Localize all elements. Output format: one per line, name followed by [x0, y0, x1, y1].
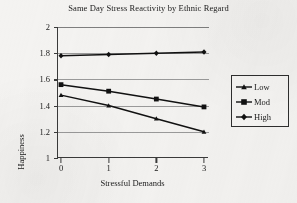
legend-label: Low — [254, 82, 270, 92]
data-point-marker — [241, 113, 247, 119]
x-axis-tick-label: 1 — [107, 164, 111, 173]
x-axis-tick-labels: 0123 — [57, 164, 208, 176]
legend-label: High — [254, 112, 271, 122]
y-axis-tick-label: 2 — [46, 23, 50, 32]
legend-item-high[interactable]: High — [235, 109, 286, 124]
data-point-marker — [154, 97, 159, 102]
data-point-marker — [58, 53, 63, 59]
y-axis-tick-label: 1.4 — [39, 101, 50, 110]
y-axis-title: Happiness — [16, 112, 26, 192]
series-high — [58, 49, 206, 58]
data-point-marker — [106, 89, 111, 94]
series-line — [61, 85, 204, 107]
data-point-marker — [202, 105, 207, 110]
data-point-marker — [241, 99, 247, 105]
legend-item-mod[interactable]: Mod — [235, 94, 286, 109]
chart-figure: Same Day Stress Reactivity by Ethnic Reg… — [0, 0, 297, 203]
data-point-marker — [201, 49, 206, 55]
data-point-marker — [59, 82, 64, 87]
series-layer — [57, 27, 208, 158]
chart-legend: LowModHigh — [231, 75, 289, 127]
legend-marker-diamond-icon — [235, 111, 253, 123]
x-axis-tick-label: 3 — [202, 164, 206, 173]
chart-title: Same Day Stress Reactivity by Ethnic Reg… — [0, 3, 297, 13]
legend-label: Mod — [254, 97, 270, 107]
y-axis-tick-labels: 11.21.41.61.82 — [0, 27, 55, 158]
legend-marker-square-icon — [235, 96, 253, 108]
x-axis-tick-label: 0 — [59, 164, 63, 173]
y-axis-tick-label: 1.8 — [39, 49, 50, 58]
series-mod — [59, 82, 207, 109]
x-axis-tick-label: 2 — [154, 164, 158, 173]
series-low — [59, 93, 207, 134]
x-axis-title: Stressful Demands — [57, 178, 208, 188]
data-point-marker — [106, 52, 111, 58]
y-axis-tick-label: 1.6 — [39, 75, 50, 84]
y-axis-tick-label: 1 — [46, 154, 50, 163]
data-point-marker — [154, 50, 159, 56]
legend-marker-triangle-icon — [235, 81, 253, 93]
series-line — [61, 52, 204, 56]
y-axis-tick-label: 1.2 — [39, 128, 50, 137]
legend-item-low[interactable]: Low — [235, 79, 286, 94]
series-line — [61, 95, 204, 132]
